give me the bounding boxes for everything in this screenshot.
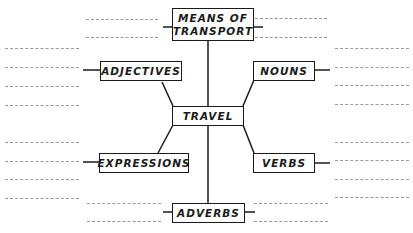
- blank-line: [86, 37, 158, 38]
- blank-line: [335, 85, 409, 86]
- blank-line: [5, 86, 79, 87]
- blank-line: [5, 105, 79, 106]
- node-label-line2: TRANSPORT: [173, 25, 253, 38]
- blank-line: [5, 198, 79, 199]
- blank-line: [335, 104, 409, 105]
- node-label: VERBS: [262, 157, 306, 170]
- node-center-travel: TRAVEL: [172, 106, 244, 126]
- blank-line: [254, 221, 328, 222]
- node-nouns: NOUNS: [253, 61, 315, 81]
- blank-line: [5, 179, 79, 180]
- blank-line: [335, 197, 409, 198]
- blank-line: [335, 142, 409, 143]
- node-label: EXPRESSIONS: [97, 157, 190, 170]
- blank-line: [5, 67, 79, 68]
- node-label: ADJECTIVES: [101, 65, 181, 78]
- node-expressions: EXPRESSIONS: [99, 153, 189, 173]
- blank-line: [335, 179, 409, 180]
- center-label: TRAVEL: [183, 110, 234, 123]
- blank-line: [254, 203, 328, 204]
- node-label-line1: MEANS OF: [178, 12, 248, 25]
- node-adverbs: ADVERBS: [172, 203, 245, 223]
- blank-line: [335, 67, 409, 68]
- node-verbs: VERBS: [253, 153, 315, 173]
- blank-line: [5, 142, 79, 143]
- blank-line: [5, 48, 79, 49]
- node-label: NOUNS: [260, 65, 308, 78]
- blank-line: [5, 161, 79, 162]
- blank-line: [87, 203, 161, 204]
- node-means-of-transport: MEANS OF TRANSPORT: [172, 8, 254, 41]
- blank-line: [86, 19, 158, 20]
- node-adjectives: ADJECTIVES: [100, 61, 182, 81]
- blank-line: [87, 221, 161, 222]
- blank-line: [255, 18, 327, 19]
- blank-line: [255, 37, 327, 38]
- blank-line: [335, 48, 409, 49]
- blank-line: [335, 160, 409, 161]
- node-label: ADVERBS: [177, 207, 240, 220]
